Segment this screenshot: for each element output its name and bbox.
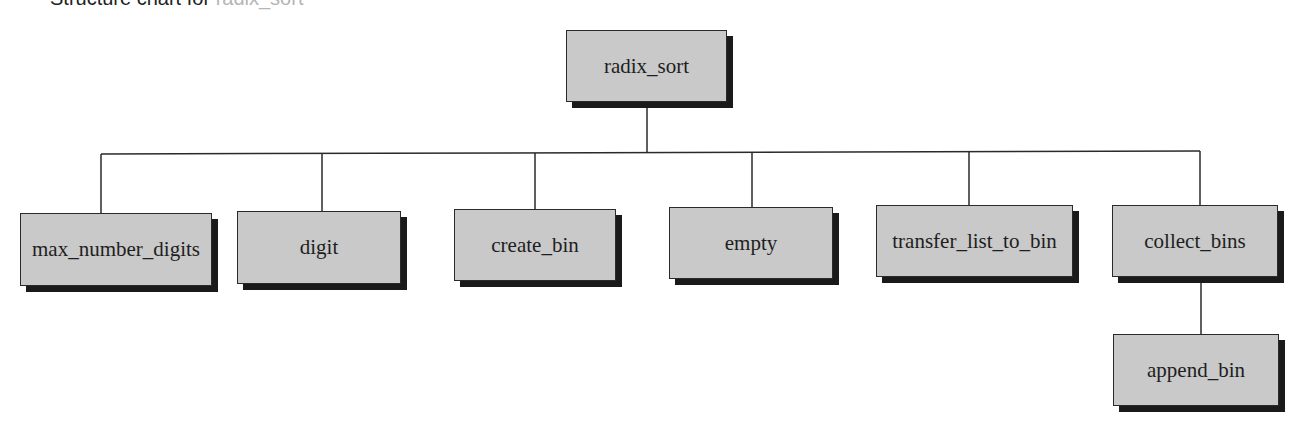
node-max-number-digits: max_number_digits: [20, 213, 212, 286]
node-transfer-list-to-bin: transfer_list_to_bin: [876, 205, 1073, 277]
node-append-bin: append_bin: [1113, 334, 1279, 406]
node-label: empty: [725, 231, 778, 256]
node-label: create_bin: [491, 233, 578, 258]
node-label: collect_bins: [1144, 229, 1245, 254]
node-digit: digit: [237, 211, 401, 284]
node-label: transfer_list_to_bin: [892, 229, 1056, 254]
node-label: max_number_digits: [32, 237, 200, 262]
node-label: radix_sort: [604, 54, 689, 79]
connector-bus: [101, 151, 1200, 154]
node-label: append_bin: [1147, 358, 1245, 383]
node-label: digit: [300, 235, 339, 260]
node-empty: empty: [669, 207, 833, 279]
node-collect-bins: collect_bins: [1112, 205, 1278, 277]
node-create-bin: create_bin: [454, 209, 616, 281]
node-radix-sort: radix_sort: [566, 30, 727, 102]
